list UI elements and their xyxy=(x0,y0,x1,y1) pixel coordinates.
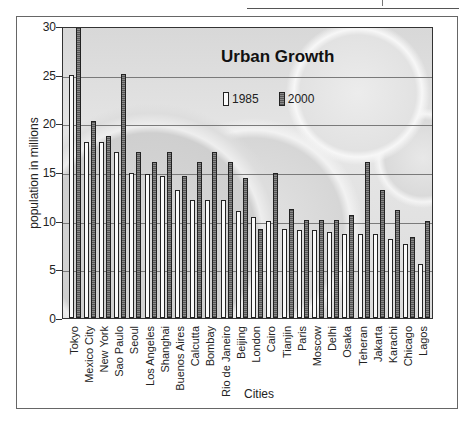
y-tick-label: 5 xyxy=(49,263,56,277)
bar-2000-delhi xyxy=(334,220,339,318)
bar-2000-cairo xyxy=(273,173,278,318)
legend: 1985 2000 xyxy=(223,92,334,106)
bar-1985-tianjin xyxy=(282,229,287,318)
bar-1985-bombay xyxy=(205,200,210,318)
x-tick-label: Delhi xyxy=(326,326,338,351)
legend-item-2000: 2000 xyxy=(279,92,315,106)
bar-1985-moscow xyxy=(312,230,317,318)
bar-2000-calcutta xyxy=(197,162,202,318)
y-tick xyxy=(56,319,62,320)
bar-2000-shanghai xyxy=(167,152,172,318)
x-tick-label: Bombay xyxy=(205,326,217,366)
y-tick-label: 30 xyxy=(43,20,56,34)
bar-1985-lagos xyxy=(418,264,423,318)
y-tick-label: 15 xyxy=(43,166,56,180)
bar-1985-sao-paulo xyxy=(114,152,119,318)
x-tick-label: Moscow xyxy=(311,326,323,366)
x-tick-label: Shanghai xyxy=(158,326,170,373)
x-tick-label: Sao Paulo xyxy=(113,326,125,377)
x-tick-label: Tokyo xyxy=(67,326,79,355)
bar-2000-sao-paulo xyxy=(121,74,126,318)
x-tick-label: Jakarta xyxy=(372,326,384,362)
bar-1985-shanghai xyxy=(160,176,165,318)
y-tick xyxy=(56,124,62,125)
y-tick xyxy=(56,27,62,28)
bar-2000-bombay xyxy=(212,152,217,318)
bar-1985-london xyxy=(251,217,256,318)
bar-1985-tokyo xyxy=(69,75,74,318)
x-tick-label: Beijing xyxy=(235,326,247,359)
bar-2000-new-york xyxy=(106,136,111,318)
y-tick-label: 0 xyxy=(49,312,56,326)
bar-2000-seoul xyxy=(136,152,141,318)
bar-1985-beijing xyxy=(236,211,241,318)
legend-label-1985: 1985 xyxy=(232,92,259,106)
x-tick-label: London xyxy=(250,326,262,363)
bar-1985-rio-de-janeiro xyxy=(221,200,226,318)
bar-2000-tianjin xyxy=(289,209,294,318)
legend-swatch-2000-icon xyxy=(279,92,285,106)
bar-1985-mexico-city xyxy=(84,142,89,318)
legend-swatch-1985-icon xyxy=(223,92,229,106)
y-axis-title: population in millions xyxy=(27,117,41,228)
x-tick-label: Rio de Janeiro xyxy=(220,326,232,397)
x-tick-label: Calcutta xyxy=(190,326,202,366)
bar-2000-chicago xyxy=(410,237,415,318)
y-tick-label: 25 xyxy=(43,69,56,83)
bar-1985-calcutta xyxy=(190,200,195,318)
x-axis-title: Cities xyxy=(244,387,274,401)
bar-1985-delhi xyxy=(327,232,332,318)
gridline xyxy=(63,77,432,78)
bar-2000-jakarta xyxy=(380,190,385,318)
x-tick-label: Los Angeles xyxy=(144,326,156,386)
bar-1985-los-angeles xyxy=(145,174,150,318)
header-rule-tick xyxy=(382,0,383,6)
bar-1985-cairo xyxy=(266,221,271,318)
gridline xyxy=(63,125,432,126)
bar-2000-beijing xyxy=(243,178,248,318)
bar-2000-tokyo xyxy=(76,27,81,318)
bar-1985-osaka xyxy=(342,234,347,318)
x-tick-label: Chicago xyxy=(403,326,415,366)
x-tick-label: Paris xyxy=(296,326,308,351)
bar-2000-moscow xyxy=(319,220,324,318)
bar-2000-los-angeles xyxy=(152,162,157,318)
bar-1985-jakarta xyxy=(373,234,378,318)
bar-1985-paris xyxy=(297,230,302,318)
y-tick xyxy=(56,222,62,223)
x-tick-label: Mexico City xyxy=(83,326,95,383)
bar-2000-rio-de-janeiro xyxy=(228,162,233,318)
legend-label-2000: 2000 xyxy=(288,92,315,106)
bar-2000-buenos-aires xyxy=(182,176,187,318)
bar-1985-seoul xyxy=(129,173,134,318)
plot-area xyxy=(62,27,433,319)
x-tick-label: New York xyxy=(99,326,111,372)
y-tick xyxy=(56,270,62,271)
x-tick-label: Cairo xyxy=(266,326,278,352)
bar-1985-teheran xyxy=(358,234,363,318)
bar-1985-karachi xyxy=(388,239,393,318)
y-tick xyxy=(56,173,62,174)
bar-1985-new-york xyxy=(99,142,104,318)
bar-2000-mexico-city xyxy=(91,121,96,318)
bar-1985-buenos-aires xyxy=(175,190,180,318)
x-tick-label: Osaka xyxy=(341,326,353,358)
bar-2000-lagos xyxy=(425,221,430,318)
x-tick-label: Lagos xyxy=(417,326,429,356)
y-tick xyxy=(56,76,62,77)
header-rule xyxy=(247,8,459,9)
chart-title: Urban Growth xyxy=(221,47,334,67)
x-tick-label: Teheran xyxy=(356,326,368,366)
x-tick-label: Karachi xyxy=(387,326,399,363)
y-tick-label: 20 xyxy=(43,117,56,131)
x-tick-label: Seoul xyxy=(129,326,141,354)
bar-1985-chicago xyxy=(403,244,408,318)
bar-2000-paris xyxy=(304,220,309,318)
x-tick-label: Buenos Aires xyxy=(174,326,186,391)
bar-2000-osaka xyxy=(349,215,354,318)
x-tick-label: Tianjin xyxy=(281,326,293,358)
bar-2000-karachi xyxy=(395,210,400,318)
bar-2000-teheran xyxy=(365,162,370,318)
bar-2000-london xyxy=(258,229,263,318)
legend-item-1985: 1985 xyxy=(223,92,259,106)
